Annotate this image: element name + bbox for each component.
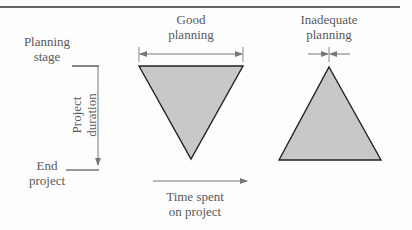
end-project-label-line1: End	[14, 158, 80, 173]
project-duration-label-line2: duration	[84, 80, 99, 150]
planning-stage-label-line1: Planning	[14, 34, 80, 49]
good-planning-label: Good planning	[151, 12, 231, 42]
project-duration-label: Project duration	[69, 80, 101, 150]
good-planning-label-line2: planning	[151, 27, 231, 42]
inadequate-planning-label-line2: planning	[284, 27, 374, 42]
good-planning-label-line1: Good	[151, 12, 231, 27]
planning-stage-label: Planning stage	[14, 34, 80, 64]
time-spent-label-line1: Time spent	[155, 189, 235, 204]
end-project-label: End project	[14, 158, 80, 188]
good-planning-triangle	[139, 66, 243, 159]
time-spent-label-line2: on project	[155, 204, 235, 219]
planning-stage-label-line2: stage	[14, 49, 80, 64]
time-spent-label: Time spent on project	[155, 189, 235, 219]
project-duration-label-line1: Project	[69, 80, 84, 150]
inadequate-planning-label: Inadequate planning	[284, 12, 374, 42]
inadequate-planning-label-line1: Inadequate	[284, 12, 374, 27]
end-project-label-line2: project	[14, 173, 80, 188]
inadequate-planning-triangle	[279, 67, 381, 160]
